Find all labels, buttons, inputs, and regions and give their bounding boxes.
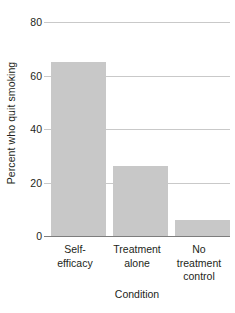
y-axis-tick-label: 80	[16, 17, 42, 28]
y-axis-tick-label: 0	[16, 231, 42, 242]
bar	[175, 220, 230, 236]
x-axis-tick-label-line: alone	[102, 257, 172, 271]
x-axis-tick-label: Treatmentalone	[102, 243, 172, 270]
bar	[113, 166, 168, 236]
gridline	[44, 22, 230, 23]
bar-chart-figure: Percent who quit smoking 020406080 Self-…	[0, 0, 235, 313]
x-axis-tick-label-line: No	[164, 243, 234, 257]
y-axis-tick-label: 20	[16, 177, 42, 188]
x-axis-tick-label: Self-efficacy	[40, 243, 110, 270]
y-axis-tick-label: 40	[16, 124, 42, 135]
x-axis-tick-label-line: Treatment	[102, 243, 172, 257]
x-axis-tick-label: Notreatmentcontrol	[164, 243, 234, 284]
y-axis-tick-labels: 020406080	[8, 0, 42, 313]
plot-area	[44, 22, 230, 236]
x-axis-tick-label-line: Self-	[40, 243, 110, 257]
y-axis-tick-label: 60	[16, 70, 42, 81]
bar	[51, 62, 106, 236]
x-axis-tick-label-line: efficacy	[40, 257, 110, 271]
x-axis-tick-label-line: treatment	[164, 257, 234, 271]
x-axis-tick-labels: Self-efficacyTreatmentaloneNotreatmentco…	[44, 243, 230, 289]
x-axis-line	[44, 236, 230, 237]
x-axis-title: Condition	[44, 288, 230, 300]
x-axis-tick-label-line: control	[164, 270, 234, 284]
